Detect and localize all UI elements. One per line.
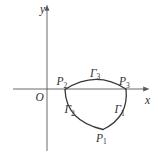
point-label-p2: P2: [56, 75, 68, 90]
point-label-p1: P1: [95, 132, 107, 147]
x-axis-label: x: [144, 94, 151, 106]
point-label-p3-sub: 3: [126, 81, 130, 90]
curve-label-gamma1-sub: 1: [121, 109, 125, 118]
curve-label-gamma3-sub: 3: [97, 72, 101, 81]
point-label-p2-base: P: [56, 75, 64, 87]
y-axis-label: y: [39, 3, 46, 16]
curve-label-gamma2-sub: 2: [71, 109, 75, 118]
axes: [13, 5, 150, 152]
y-axis-arrow-icon: [45, 5, 50, 11]
x-axis-arrow-icon: [143, 87, 149, 92]
figure-canvas: y x O P2 P3 P1 Γ3 Γ2 Γ1: [0, 0, 158, 157]
point-label-p1-sub: 1: [103, 137, 107, 146]
origin-label: O: [36, 91, 45, 103]
curve-label-gamma1: Γ1: [114, 103, 126, 118]
point-label-p2-sub: 2: [64, 81, 68, 90]
labels: y x O P2 P3 P1 Γ3 Γ2 Γ1: [36, 3, 152, 146]
point-label-p3-base: P: [118, 75, 126, 87]
diagram-svg: y x O P2 P3 P1 Γ3 Γ2 Γ1: [0, 0, 158, 157]
curve-label-gamma2: Γ2: [64, 103, 76, 118]
point-label-p1-base: P: [95, 132, 103, 144]
curve-gamma3-arc: [65, 79, 126, 89]
